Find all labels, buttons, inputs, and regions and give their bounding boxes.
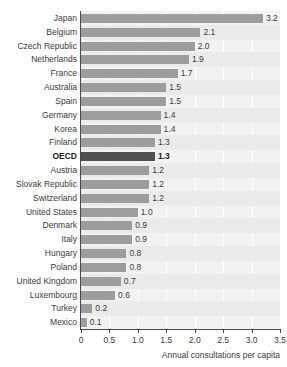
row-band [81, 315, 280, 330]
bar[interactable] [81, 166, 149, 175]
bar[interactable] [81, 304, 92, 313]
bar-row[interactable]: Netherlands1.9 [0, 52, 287, 67]
x-tick-mark [109, 330, 110, 333]
bar[interactable] [81, 42, 195, 51]
category-label: Czech Republic [0, 41, 77, 52]
category-label: Mexico [0, 317, 77, 328]
x-tick-label: 1.5 [160, 335, 172, 346]
bar-row[interactable]: Italy0.9 [0, 232, 287, 247]
bar[interactable] [81, 221, 132, 230]
bar[interactable] [81, 14, 263, 23]
bar-row[interactable]: United States1.0 [0, 205, 287, 220]
bar-row[interactable]: France1.7 [0, 66, 287, 81]
category-label: Germany [0, 110, 77, 121]
bar-value-label: 0.7 [124, 276, 136, 287]
bar-row[interactable]: Australia1.5 [0, 80, 287, 95]
bar-row[interactable]: Spain1.5 [0, 94, 287, 109]
bar[interactable] [81, 208, 138, 217]
bar-row[interactable]: Belgium2.1 [0, 25, 287, 40]
bar-row[interactable]: Hungary0.8 [0, 246, 287, 261]
bar-value-label: 0.9 [135, 234, 147, 245]
bar-row[interactable]: Denmark0.9 [0, 218, 287, 233]
bar[interactable] [81, 97, 166, 106]
bar[interactable] [81, 28, 200, 37]
bar-row[interactable]: Slovak Republic1.2 [0, 177, 287, 192]
bar-value-label: 1.3 [158, 151, 170, 162]
bar[interactable] [81, 125, 161, 134]
x-tick-label: 3.5 [274, 335, 286, 346]
category-label: Denmark [0, 220, 77, 231]
bar-row[interactable]: Korea1.4 [0, 122, 287, 137]
bar[interactable] [81, 55, 189, 64]
category-label: OECD [0, 151, 77, 162]
category-label: Hungary [0, 248, 77, 259]
category-label: United Kingdom [0, 276, 77, 287]
bar-row[interactable]: Switzerland1.2 [0, 191, 287, 206]
bar-row[interactable]: Turkey0.2 [0, 301, 287, 316]
category-label: United States [0, 207, 77, 218]
x-tick-label: 0.5 [104, 335, 116, 346]
category-label: Spain [0, 96, 77, 107]
bar[interactable] [81, 194, 149, 203]
x-tick-mark [138, 330, 139, 333]
bar-value-label: 1.2 [152, 193, 164, 204]
category-label: Poland [0, 262, 77, 273]
bar-row[interactable]: OECD1.3 [0, 149, 287, 164]
bar-row[interactable]: Finland1.3 [0, 135, 287, 150]
category-label: Australia [0, 82, 77, 93]
bar-value-label: 1.4 [164, 124, 176, 135]
bar-value-label: 0.2 [95, 303, 107, 314]
bar-row[interactable]: Germany1.4 [0, 108, 287, 123]
chart-title-fragment [55, 0, 245, 3]
bar[interactable] [81, 318, 87, 327]
bar-value-label: 2.0 [198, 41, 210, 52]
x-tick-label: 3.0 [246, 335, 258, 346]
bar[interactable] [81, 111, 161, 120]
bar[interactable] [81, 277, 121, 286]
bar[interactable] [81, 291, 115, 300]
bar-row[interactable]: Poland0.8 [0, 260, 287, 275]
bar-value-label: 1.0 [141, 207, 153, 218]
bar-value-label: 1.2 [152, 165, 164, 176]
category-label: Slovak Republic [0, 179, 77, 190]
category-label: Finland [0, 137, 77, 148]
bar-row[interactable]: Japan3.2 [0, 11, 287, 26]
bar[interactable] [81, 152, 155, 161]
x-tick-label: 2.5 [217, 335, 229, 346]
row-band [81, 301, 280, 316]
bar-value-label: 1.2 [152, 179, 164, 190]
x-axis-title: Annual consultations per capita [0, 350, 280, 361]
bar[interactable] [81, 138, 155, 147]
x-tick-mark [81, 330, 82, 333]
bar-rows: Japan3.2Belgium2.1Czech Republic2.0Nethe… [0, 11, 287, 329]
bar-value-label: 0.8 [129, 262, 141, 273]
bar[interactable] [81, 83, 166, 92]
category-label: France [0, 68, 77, 79]
bar-value-label: 1.4 [164, 110, 176, 121]
category-label: Turkey [0, 303, 77, 314]
bar-value-label: 0.8 [129, 248, 141, 259]
bar-value-label: 1.5 [169, 96, 181, 107]
x-tick-label: 2.0 [189, 335, 201, 346]
bar-value-label: 2.1 [203, 27, 215, 38]
bar-value-label: 1.9 [192, 54, 204, 65]
category-label: Italy [0, 234, 77, 245]
category-label: Switzerland [0, 193, 77, 204]
bar[interactable] [81, 263, 126, 272]
bar[interactable] [81, 69, 178, 78]
bar-row[interactable]: Mexico0.1 [0, 315, 287, 330]
bar[interactable] [81, 235, 132, 244]
bar-value-label: 0.9 [135, 220, 147, 231]
bar-row[interactable]: Austria1.2 [0, 163, 287, 178]
bar-row[interactable]: United Kingdom0.7 [0, 274, 287, 289]
bar[interactable] [81, 249, 126, 258]
category-label: Belgium [0, 27, 77, 38]
bar-value-label: 0.1 [90, 317, 102, 328]
x-tick-mark [166, 330, 167, 333]
y-axis-line [80, 11, 81, 330]
bar[interactable] [81, 180, 149, 189]
x-tick-label: 0 [79, 335, 84, 346]
bar-row[interactable]: Czech Republic2.0 [0, 39, 287, 54]
bar-row[interactable]: Luxembourg0.6 [0, 288, 287, 303]
x-tick-mark [223, 330, 224, 333]
